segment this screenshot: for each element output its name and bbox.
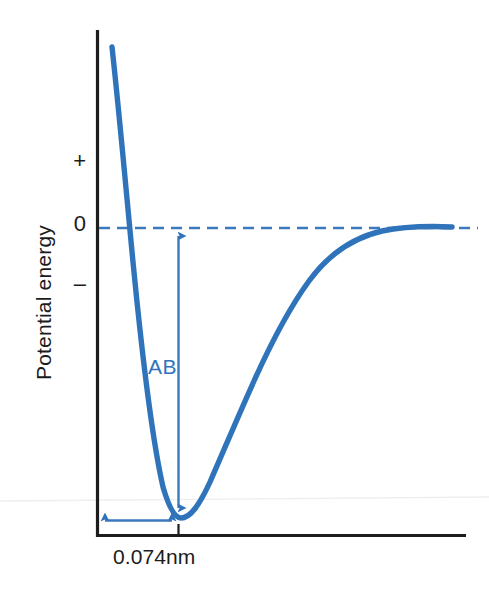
x-tick-label-bond-length: 0.074nm — [113, 545, 195, 569]
y-axis-title: Potential energy — [32, 225, 56, 380]
energy-gap-label: AB — [148, 355, 177, 379]
y-tick-label-negative: – — [58, 271, 86, 297]
scan-artifact-line — [0, 497, 489, 501]
potential-energy-curve — [112, 47, 452, 518]
potential-energy-chart: Potential energy + 0 – 0.074nm AB — [0, 0, 489, 590]
y-tick-label-zero: 0 — [58, 211, 86, 237]
y-tick-label-positive: + — [58, 148, 86, 174]
